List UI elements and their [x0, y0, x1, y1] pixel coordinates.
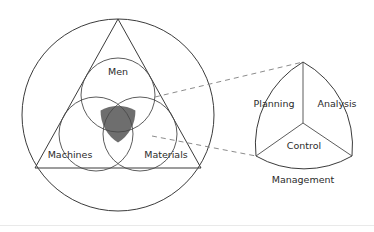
diagram-canvas: Men Machines Materials Planning Analysis…: [0, 0, 374, 232]
left-diagram-group: Men Machines Materials: [22, 19, 214, 211]
label-control: Control: [287, 140, 321, 151]
label-machines: Machines: [48, 149, 93, 160]
reuleaux-outline: [255, 62, 352, 169]
inscribed-triangle: [35, 19, 201, 168]
label-analysis: Analysis: [317, 98, 356, 109]
label-men: Men: [108, 66, 128, 77]
bottom-rule: [0, 225, 374, 226]
label-materials: Materials: [144, 149, 188, 160]
diagram-root: Men Machines Materials Planning Analysis…: [0, 0, 374, 232]
label-planning: Planning: [254, 98, 295, 109]
right-diagram-group: Planning Analysis Control Management: [254, 62, 357, 185]
core-intersection-fill: [101, 106, 136, 143]
connectors-group: [152, 62, 303, 156]
label-management: Management: [272, 174, 335, 185]
